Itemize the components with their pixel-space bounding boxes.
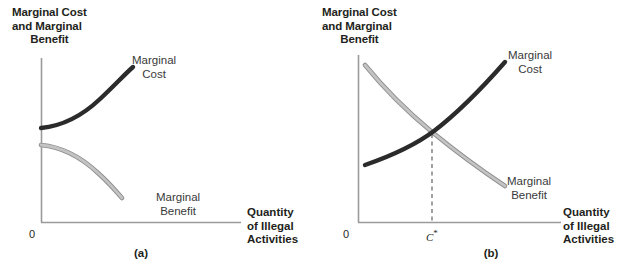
x-axis-title-line-3: Activities	[563, 233, 614, 247]
mc-label-line-1: Marginal	[132, 53, 176, 67]
x-axis-title-line-3: Activities	[247, 233, 298, 247]
panel-b-caption: (b)	[471, 247, 511, 259]
x-axis-title-line-1: Quantity	[247, 206, 298, 220]
mb-label-line-1: Marginal	[156, 190, 200, 204]
panel-a-marginal-cost-label: Marginal Cost	[132, 53, 176, 81]
panel-a-marginal-benefit-curve-outline	[41, 145, 122, 198]
panel-a-marginal-cost-curve	[41, 67, 133, 128]
x-axis-title-line-1: Quantity	[563, 206, 614, 220]
panel-a-x-axis-title: Quantity of Illegal Activities	[247, 206, 298, 247]
panel-a-marginal-benefit-curve	[41, 145, 122, 198]
panel-b-x-axis-title: Quantity of Illegal Activities	[563, 206, 614, 247]
panel-b-origin-label: 0	[343, 228, 349, 240]
figure-marginal-cost-benefit: Marginal Cost and Marginal Benefit Margi…	[0, 0, 630, 279]
panel-a-marginal-benefit-label: Marginal Benefit	[156, 190, 200, 218]
panel-a-caption: (a)	[121, 247, 161, 259]
x-axis-title-line-2: of Illegal	[247, 220, 298, 234]
panel-b-marginal-cost-curve	[365, 62, 505, 165]
mc-label-line-1: Marginal	[508, 48, 552, 62]
panel-b-marginal-benefit-label: Marginal Benefit	[507, 174, 551, 202]
panel-b-equilibrium-tick-label: C*	[426, 228, 438, 243]
mc-label-line-2: Cost	[132, 67, 176, 81]
x-axis-title-line-2: of Illegal	[563, 220, 614, 234]
panel-b-marginal-cost-label: Marginal Cost	[508, 48, 552, 76]
equilibrium-asterisk: *	[433, 228, 438, 238]
panel-b: Marginal Cost and Marginal Benefit Margi…	[315, 0, 630, 279]
panel-a: Marginal Cost and Marginal Benefit Margi…	[0, 0, 315, 279]
mc-label-line-2: Cost	[508, 62, 552, 76]
mb-label-line-2: Benefit	[156, 204, 200, 218]
mb-label-line-1: Marginal	[507, 174, 551, 188]
panel-a-origin-label: 0	[29, 228, 35, 240]
mb-label-line-2: Benefit	[507, 188, 551, 202]
